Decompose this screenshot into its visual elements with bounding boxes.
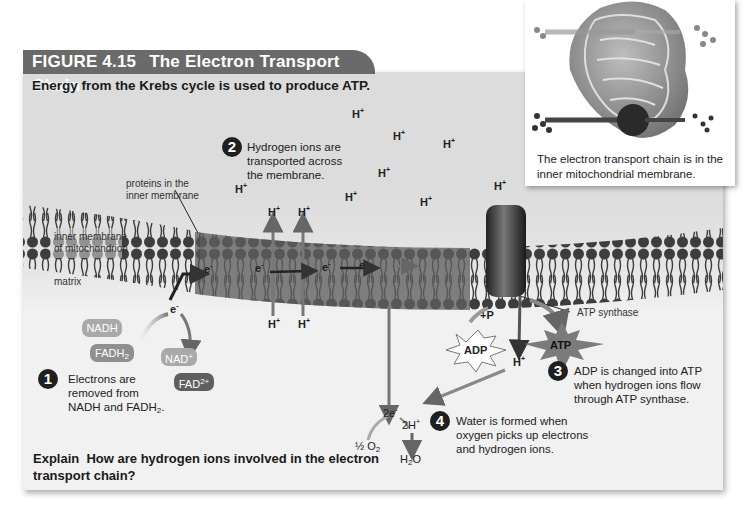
step-2-text: Hydrogen ions aretransported acrossthe m… <box>247 140 342 182</box>
electron: e- <box>359 258 367 271</box>
step-2-badge: 2 <box>222 137 242 157</box>
inner-membrane-label: inner membraneof mitochondrion <box>54 231 128 255</box>
atp-label: ATP <box>550 339 571 351</box>
hydrogen-ion: H+ <box>235 182 247 195</box>
step-3-badge: 3 <box>548 361 568 381</box>
fad-badge: FAD2+ <box>174 373 214 391</box>
electron: e- <box>255 261 263 274</box>
hydrogen-ion: H+ <box>345 190 357 203</box>
nad-badge: NAD+ <box>161 348 197 366</box>
mitochondrion-illustration <box>525 0 735 150</box>
step-4-text: Water is formed whenoxygen picks up elec… <box>456 414 588 456</box>
two-hydrogen-ions: 2H+ <box>402 418 420 431</box>
step-4-badge: 4 <box>430 411 450 431</box>
hydrogen-ion: H+ <box>494 179 506 192</box>
hydrogen-ion: H+ <box>268 317 280 330</box>
two-electrons: 2e- <box>383 406 398 419</box>
hydrogen-ion: H+ <box>298 317 310 330</box>
mitochondrion-inset: The electron transport chain is in thein… <box>525 0 735 186</box>
hydrogen-ion: H+ <box>443 137 455 150</box>
electron: e- <box>322 260 330 273</box>
inset-caption: The electron transport chain is in thein… <box>537 152 737 182</box>
electron: e- <box>204 262 212 275</box>
electron: e- <box>170 302 178 315</box>
hydrogen-ion: H+ <box>420 195 432 208</box>
matrix-label: matrix <box>54 276 81 288</box>
phosphate-label: +P <box>480 309 494 321</box>
adp-label: ADP <box>464 344 487 356</box>
hydrogen-ion: H+ <box>513 355 525 368</box>
step-1-badge: 1 <box>38 369 58 389</box>
step-1-text: Electrons areremoved from NADH and FADH2… <box>68 372 165 418</box>
nadh-badge: NADH <box>82 319 122 337</box>
atp-synthase-label: ATP synthase <box>577 307 638 319</box>
explain-question: Explain How are hydrogen ions involved i… <box>33 450 393 484</box>
water: H2O <box>400 453 421 467</box>
hydrogen-ion: H+ <box>378 166 390 179</box>
hydrogen-ion: H+ <box>393 129 405 142</box>
fadh2-badge: FADH2 <box>90 344 134 362</box>
proteins-label: proteins in theinner membrane <box>126 178 199 202</box>
hydrogen-ion: H+ <box>268 205 280 218</box>
hydrogen-ion: H+ <box>352 107 364 120</box>
hydrogen-ion: H+ <box>298 205 310 218</box>
step-3-text: ADP is changed into ATPwhen hydrogen ion… <box>574 364 702 406</box>
